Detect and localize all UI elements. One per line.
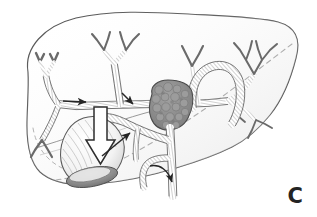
liver-biliary-illustration [0, 0, 317, 217]
panel-label: C [288, 186, 303, 207]
thin-arrow-left-duct [63, 101, 86, 102]
figure-panel: C [0, 0, 317, 217]
